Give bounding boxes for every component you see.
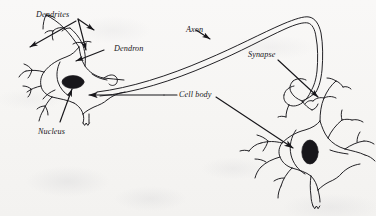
label-axon: Axon bbox=[186, 26, 203, 34]
label-synapse: Synapse bbox=[248, 51, 276, 59]
leader-synapse bbox=[278, 60, 318, 97]
neuron-diagram-figure: Dendrites Dendron Axon Synapse Cell body… bbox=[0, 0, 376, 216]
leader-cell-body-right bbox=[216, 97, 293, 148]
label-nucleus: Nucleus bbox=[38, 128, 65, 136]
label-dendrites: Dendrites bbox=[36, 11, 69, 19]
label-cell-body: Cell body bbox=[179, 91, 212, 99]
right-soma-inner-contours bbox=[290, 130, 348, 174]
label-dendron: Dendron bbox=[114, 45, 144, 53]
axon-tube bbox=[97, 17, 323, 96]
synapse-terminal bbox=[278, 79, 318, 117]
left-nucleus bbox=[62, 76, 84, 89]
left-lateral-dendrites bbox=[19, 64, 55, 121]
right-nucleus bbox=[302, 140, 318, 164]
left-axon-hillock bbox=[83, 114, 89, 125]
right-soma-outline bbox=[279, 121, 365, 190]
leader-dendrites bbox=[30, 19, 94, 50]
left-neuron bbox=[19, 15, 125, 125]
right-left-dendrites bbox=[240, 135, 292, 198]
